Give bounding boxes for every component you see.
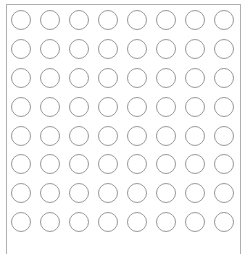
grid-circle-r1-c2[interactable] <box>70 40 89 59</box>
grid-circle-r3-c2[interactable] <box>70 98 89 117</box>
grid-circle-r7-c1[interactable] <box>41 213 60 232</box>
grid-circle-r1-c7[interactable] <box>215 40 234 59</box>
grid-circle-r5-c7[interactable] <box>215 155 234 174</box>
grid-circle-r5-c4[interactable] <box>128 155 147 174</box>
grid-circle-r4-c4[interactable] <box>128 127 147 146</box>
grid-circle-r3-c7[interactable] <box>215 98 234 117</box>
grid-circle-r5-c5[interactable] <box>157 155 176 174</box>
grid-circle-r1-c3[interactable] <box>99 40 118 59</box>
grid-circle-r0-c3[interactable] <box>99 11 118 30</box>
grid-circle-r6-c3[interactable] <box>99 184 118 203</box>
grid-circle-r5-c2[interactable] <box>70 155 89 174</box>
grid-circle-r2-c2[interactable] <box>70 69 89 88</box>
grid-circle-r3-c3[interactable] <box>99 98 118 117</box>
grid-circle-r4-c3[interactable] <box>99 127 118 146</box>
grid-circle-r0-c7[interactable] <box>215 11 234 30</box>
grid-circle-r2-c3[interactable] <box>99 69 118 88</box>
grid-circle-r3-c1[interactable] <box>41 98 60 117</box>
grid-circle-r2-c0[interactable] <box>12 69 31 88</box>
grid-circle-r7-c4[interactable] <box>128 213 147 232</box>
grid-circle-r6-c7[interactable] <box>215 184 234 203</box>
grid-circle-r2-c7[interactable] <box>215 69 234 88</box>
grid-circle-r2-c6[interactable] <box>186 69 205 88</box>
grid-circle-r6-c0[interactable] <box>12 184 31 203</box>
grid-circle-r3-c6[interactable] <box>186 98 205 117</box>
grid-circle-r3-c5[interactable] <box>157 98 176 117</box>
grid-circle-r5-c0[interactable] <box>12 155 31 174</box>
grid-circle-r6-c4[interactable] <box>128 184 147 203</box>
grid-circle-r0-c0[interactable] <box>12 11 31 30</box>
grid-circle-r4-c7[interactable] <box>215 127 234 146</box>
grid-circle-r6-c2[interactable] <box>70 184 89 203</box>
grid-circle-r7-c0[interactable] <box>12 213 31 232</box>
grid-circle-r6-c1[interactable] <box>41 184 60 203</box>
grid-circle-r5-c3[interactable] <box>99 155 118 174</box>
grid-circle-r4-c1[interactable] <box>41 127 60 146</box>
grid-circle-r4-c6[interactable] <box>186 127 205 146</box>
grid-circle-r5-c1[interactable] <box>41 155 60 174</box>
grid-circle-r0-c4[interactable] <box>128 11 147 30</box>
grid-circle-r5-c6[interactable] <box>186 155 205 174</box>
grid-circle-r7-c5[interactable] <box>157 213 176 232</box>
grid-circle-r1-c1[interactable] <box>41 40 60 59</box>
grid-circle-r1-c5[interactable] <box>157 40 176 59</box>
grid-circle-r7-c6[interactable] <box>186 213 205 232</box>
grid-circle-r1-c6[interactable] <box>186 40 205 59</box>
grid-circle-r7-c2[interactable] <box>70 213 89 232</box>
grid-circle-r4-c2[interactable] <box>70 127 89 146</box>
grid-circle-r2-c1[interactable] <box>41 69 60 88</box>
grid-circle-r0-c6[interactable] <box>186 11 205 30</box>
grid-circle-r1-c0[interactable] <box>12 40 31 59</box>
grid-circle-r3-c0[interactable] <box>12 98 31 117</box>
grid-circle-r0-c2[interactable] <box>70 11 89 30</box>
grid-circle-r2-c5[interactable] <box>157 69 176 88</box>
grid-circle-r3-c4[interactable] <box>128 98 147 117</box>
grid-circle-r6-c6[interactable] <box>186 184 205 203</box>
grid-circle-r0-c1[interactable] <box>41 11 60 30</box>
grid-circle-r4-c5[interactable] <box>157 127 176 146</box>
grid-circle-r4-c0[interactable] <box>12 127 31 146</box>
grid-circle-r7-c3[interactable] <box>99 213 118 232</box>
grid-circle-r6-c5[interactable] <box>157 184 176 203</box>
grid-circle-r1-c4[interactable] <box>128 40 147 59</box>
grid-circle-r2-c4[interactable] <box>128 69 147 88</box>
grid-circle-r0-c5[interactable] <box>157 11 176 30</box>
grid-circle-r7-c7[interactable] <box>215 213 234 232</box>
